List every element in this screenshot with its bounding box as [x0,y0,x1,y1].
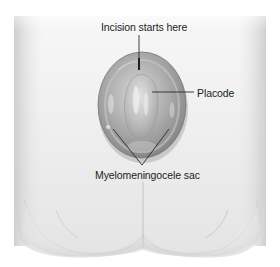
myelomeningocele-sac-label: Myelomeningocele sac [95,169,200,181]
myelomeningocele-sac [98,52,188,163]
incision-label: Incision starts here [101,21,187,33]
placode [124,74,158,138]
placode-label: Placode [197,87,234,99]
myelomeningocele-illustration: Incision starts here Placode Myelomening… [0,0,280,267]
illustration-artwork [0,0,280,267]
